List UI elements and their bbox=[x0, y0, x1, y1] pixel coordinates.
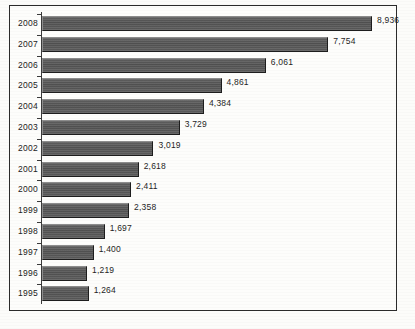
axis-tick bbox=[37, 118, 41, 119]
value-label-2001: 2,618 bbox=[144, 159, 166, 174]
bar-fill bbox=[42, 99, 204, 114]
category-label-2005: 2005 bbox=[10, 75, 38, 96]
axis-tick bbox=[37, 14, 41, 15]
axis-tick bbox=[37, 222, 41, 223]
bar-row: 19961,219 bbox=[10, 263, 396, 284]
value-label-1998: 1,697 bbox=[110, 221, 132, 236]
bar-row: 20088,936 bbox=[10, 13, 396, 34]
axis-tick bbox=[37, 76, 41, 77]
axis-tick bbox=[37, 97, 41, 98]
value-label-1999: 2,358 bbox=[134, 200, 156, 215]
bar-fill bbox=[42, 120, 180, 135]
bar-fill bbox=[42, 37, 328, 52]
value-label-2007: 7,754 bbox=[333, 34, 355, 49]
bar-1998 bbox=[42, 224, 105, 239]
bar-2001 bbox=[42, 162, 139, 177]
category-label-1999: 1999 bbox=[10, 200, 38, 221]
bar-1996 bbox=[42, 266, 87, 281]
bar-row: 20033,729 bbox=[10, 117, 396, 138]
axis-tick bbox=[37, 139, 41, 140]
bar-2002 bbox=[42, 141, 153, 156]
axis-tick bbox=[37, 56, 41, 57]
bar-fill bbox=[42, 141, 153, 156]
bar-row: 20077,754 bbox=[10, 34, 396, 55]
bar-row: 19992,358 bbox=[10, 200, 396, 221]
bar-row: 20054,861 bbox=[10, 75, 396, 96]
category-label-1998: 1998 bbox=[10, 221, 38, 242]
category-label-2000: 2000 bbox=[10, 179, 38, 200]
bar-fill bbox=[42, 58, 266, 73]
bar-2003 bbox=[42, 120, 180, 135]
bar-chart-plot-area: 20088,93620077,75420066,06120054,8612004… bbox=[10, 6, 396, 310]
bar-2004 bbox=[42, 99, 204, 114]
value-label-2000: 2,411 bbox=[136, 179, 158, 194]
bar-fill bbox=[42, 78, 222, 93]
bar-row: 19951,264 bbox=[10, 283, 396, 304]
bar-1995 bbox=[42, 286, 89, 301]
chart-frame: 20088,93620077,75420066,06120054,8612004… bbox=[9, 5, 397, 311]
bar-2008 bbox=[42, 16, 372, 31]
category-label-1996: 1996 bbox=[10, 263, 38, 284]
category-label-2006: 2006 bbox=[10, 55, 38, 76]
value-label-2003: 3,729 bbox=[185, 117, 207, 132]
category-label-2001: 2001 bbox=[10, 159, 38, 180]
bar-1997 bbox=[42, 245, 94, 260]
bar-row: 20023,019 bbox=[10, 138, 396, 159]
bar-fill bbox=[42, 182, 131, 197]
bar-row: 20012,618 bbox=[10, 159, 396, 180]
bar-fill bbox=[42, 286, 89, 301]
bar-2006 bbox=[42, 58, 266, 73]
value-label-2005: 4,861 bbox=[227, 75, 249, 90]
category-label-1995: 1995 bbox=[10, 283, 38, 304]
bar-fill bbox=[42, 203, 129, 218]
bar-fill bbox=[42, 224, 105, 239]
axis-tick bbox=[37, 35, 41, 36]
axis-tick bbox=[37, 243, 41, 244]
axis-tick bbox=[37, 284, 41, 285]
bar-2007 bbox=[42, 37, 328, 52]
bar-2005 bbox=[42, 78, 222, 93]
scanned-page: 20088,93620077,75420066,06120054,8612004… bbox=[0, 0, 415, 329]
value-label-1996: 1,219 bbox=[92, 263, 114, 278]
bar-row: 19971,400 bbox=[10, 242, 396, 263]
value-label-1995: 1,264 bbox=[94, 283, 116, 298]
bar-fill bbox=[42, 16, 372, 31]
axis-tick bbox=[37, 264, 41, 265]
bar-2000 bbox=[42, 182, 131, 197]
value-label-1997: 1,400 bbox=[99, 242, 121, 257]
value-label-2006: 6,061 bbox=[271, 55, 293, 70]
category-label-2002: 2002 bbox=[10, 138, 38, 159]
bar-fill bbox=[42, 162, 139, 177]
bar-fill bbox=[42, 266, 87, 281]
bar-row: 20044,384 bbox=[10, 96, 396, 117]
category-label-2004: 2004 bbox=[10, 96, 38, 117]
value-label-2002: 3,019 bbox=[158, 138, 180, 153]
bar-1999 bbox=[42, 203, 129, 218]
axis-tick bbox=[37, 160, 41, 161]
axis-tick bbox=[37, 201, 41, 202]
category-label-2007: 2007 bbox=[10, 34, 38, 55]
axis-tick bbox=[37, 180, 41, 181]
category-label-1997: 1997 bbox=[10, 242, 38, 263]
bar-fill bbox=[42, 245, 94, 260]
bar-row: 20002,411 bbox=[10, 179, 396, 200]
value-label-2004: 4,384 bbox=[209, 96, 231, 111]
bar-row: 19981,697 bbox=[10, 221, 396, 242]
bar-row: 20066,061 bbox=[10, 55, 396, 76]
category-label-2003: 2003 bbox=[10, 117, 38, 138]
category-label-2008: 2008 bbox=[10, 13, 38, 34]
value-label-2008: 8,936 bbox=[377, 13, 399, 28]
